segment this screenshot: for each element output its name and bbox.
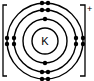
- electron: [5, 36, 9, 40]
- electron: [81, 42, 85, 46]
- electron: [74, 42, 78, 46]
- ion-charge: +: [87, 4, 92, 14]
- electron: [46, 8, 50, 12]
- electron: [46, 70, 50, 74]
- electron: [43, 61, 47, 65]
- electron: [40, 8, 44, 12]
- electron: [81, 36, 85, 40]
- electron: [43, 17, 47, 21]
- electron: [12, 42, 16, 46]
- electron: [40, 1, 44, 5]
- element-symbol: K: [41, 35, 49, 47]
- electron: [40, 70, 44, 74]
- k-ion-diagram: + K: [0, 0, 94, 81]
- electron: [5, 42, 9, 46]
- electron: [40, 77, 44, 81]
- electron: [74, 36, 78, 40]
- electron: [12, 36, 16, 40]
- electron: [46, 1, 50, 5]
- electron: [46, 77, 50, 81]
